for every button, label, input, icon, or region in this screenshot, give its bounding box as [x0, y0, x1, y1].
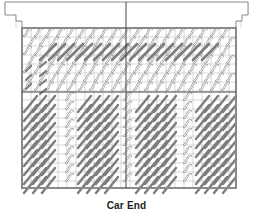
diagram-caption: Car End: [0, 200, 253, 211]
light-stitches: [22, 7, 245, 181]
stitch-diagram: [0, 0, 253, 213]
